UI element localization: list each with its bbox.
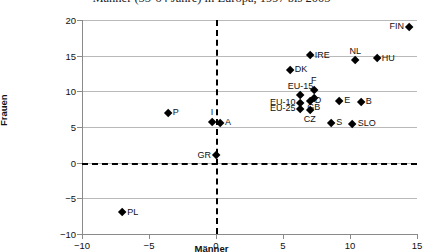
- y-axis-tick-label: 10: [65, 86, 76, 97]
- data-point-label: SLO: [358, 118, 376, 128]
- data-point-label: E: [344, 95, 350, 105]
- data-point-label: NL: [350, 46, 362, 56]
- x-axis-line: [82, 234, 417, 235]
- data-point-label: FIN: [389, 21, 404, 31]
- data-point-label: CZ: [304, 114, 316, 124]
- data-point-label: I: [211, 107, 214, 117]
- data-point-marker: [296, 105, 305, 114]
- zero-line-vertical: [216, 20, 218, 234]
- plot-area: −10−505101520−10−5051015FINIREHUNLDKFEU-…: [82, 20, 417, 234]
- x-axis-tick: [82, 234, 83, 239]
- data-point-marker: [404, 23, 413, 32]
- scatter-chart: Männer (55-64 Jahre) in Europa, 1997 bis…: [0, 0, 423, 252]
- x-axis-tick: [216, 234, 217, 239]
- y-axis-tick-label: 5: [71, 122, 76, 133]
- y-axis-tick-label: −5: [65, 193, 76, 204]
- data-point-label: B: [366, 96, 372, 106]
- y-axis-tick-label: 20: [65, 15, 76, 26]
- gridline-y: [82, 56, 417, 57]
- data-point-label: D: [315, 95, 322, 105]
- data-point-marker: [163, 108, 172, 117]
- data-point-marker: [351, 56, 360, 65]
- zero-line-horizontal: [82, 163, 417, 165]
- y-axis-tick-label: 15: [65, 50, 76, 61]
- data-point-marker: [335, 97, 344, 106]
- data-point-label: A: [225, 117, 231, 127]
- gridline-y: [82, 198, 417, 199]
- y-axis-tick-label: 0: [71, 157, 76, 168]
- data-point-marker: [305, 51, 314, 60]
- data-point-label: GR: [198, 150, 212, 160]
- data-point-label: EU-25: [270, 103, 296, 113]
- x-axis-tick: [417, 234, 418, 239]
- chart-title: Männer (55-64 Jahre) in Europa, 1997 bis…: [0, 0, 423, 6]
- data-point-marker: [211, 151, 220, 160]
- x-axis-title: Männer: [0, 243, 423, 252]
- data-point-label: IRE: [315, 50, 330, 60]
- y-axis-tick: [77, 91, 83, 92]
- y-axis-tick: [77, 127, 83, 128]
- data-point-marker: [285, 65, 294, 74]
- y-axis-title: Frauen: [0, 94, 9, 126]
- y-axis-tick: [77, 56, 83, 57]
- data-point-label: DK: [295, 64, 308, 74]
- x-axis-tick: [149, 234, 150, 239]
- data-point-label: S: [336, 117, 342, 127]
- data-point-label: PL: [127, 207, 138, 217]
- data-point-label: P: [173, 107, 179, 117]
- data-point-marker: [118, 208, 127, 217]
- y-axis-tick: [77, 20, 83, 21]
- data-point-marker: [356, 98, 365, 107]
- gridline-y: [82, 20, 417, 21]
- data-point-label: HU: [382, 53, 395, 63]
- y-axis-tick-label: −10: [60, 229, 76, 240]
- data-point-label: EU-15: [288, 81, 314, 91]
- x-axis-tick: [350, 234, 351, 239]
- x-axis-tick: [283, 234, 284, 239]
- gridline-y: [82, 91, 417, 92]
- y-axis-tick: [77, 198, 83, 199]
